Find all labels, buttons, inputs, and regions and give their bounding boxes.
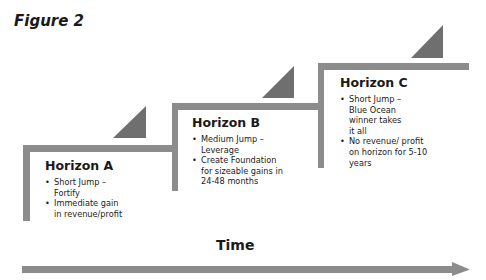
horizon-a-top-bar <box>23 145 175 152</box>
horizon-b-title: Horizon B <box>192 115 302 130</box>
horizon-a-bullet: Immediate gain in revenue/profit <box>45 198 126 219</box>
horizon-b-bullet: Create Foundation for sizeable gains in … <box>192 155 283 187</box>
horizon-b-triangle-icon <box>262 66 294 98</box>
horizon-c-top-bar <box>318 63 469 70</box>
horizon-c-side-bar <box>318 63 324 168</box>
horizon-a-side-bar <box>23 145 30 221</box>
figure-title: Figure 2 <box>14 12 84 30</box>
horizon-c-bullet: Short Jump – Blue Ocean winner takes it … <box>340 94 409 136</box>
horizon-a-bullet: Short Jump – Fortify <box>45 177 120 198</box>
horizon-c-triangle-icon <box>411 25 443 58</box>
time-axis-label: Time <box>216 237 254 253</box>
horizon-c-bullet: No revenue/ profit on horizon for 5-10 y… <box>340 136 429 168</box>
horizon-b-bullet: Medium Jump – Leverage <box>192 134 273 155</box>
horizon-a-title: Horizon A <box>45 158 155 173</box>
horizon-c-title: Horizon C <box>340 75 450 90</box>
horizon-b-side-bar <box>172 103 178 191</box>
horizon-b-block: Horizon B Medium Jump – Leverage Create … <box>192 115 302 187</box>
horizon-a-triangle-icon <box>113 106 146 138</box>
horizon-a-block: Horizon A Short Jump – Fortify Immediate… <box>45 158 155 219</box>
time-arrow-icon <box>22 262 470 276</box>
horizon-b-top-bar <box>172 103 321 110</box>
horizon-c-block: Horizon C Short Jump – Blue Ocean winner… <box>340 75 450 168</box>
